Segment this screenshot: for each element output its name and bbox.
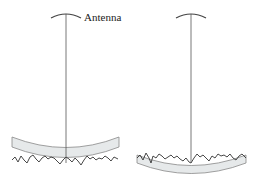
left-panel: Antenna [12,11,121,165]
right-panel [137,14,246,174]
curved-band-right [137,155,246,174]
antenna-diagram: Antenna [0,0,260,180]
antenna-label: Antenna [84,11,121,23]
curved-band-left [12,137,119,158]
